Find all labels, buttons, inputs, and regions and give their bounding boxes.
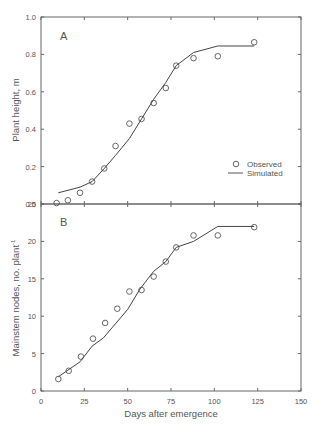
observed-point-b: [251, 224, 257, 230]
y-axis-label-a: Plant height, m: [10, 78, 21, 141]
legend: Observed Simulated: [228, 160, 283, 178]
x-tick-label: 50: [123, 397, 131, 406]
observed-point-a: [113, 143, 119, 149]
observed-point-b: [102, 320, 108, 326]
legend-observed-label: Observed: [247, 160, 282, 169]
x-axis-label: Days after emergence: [124, 408, 217, 419]
observed-point-a: [251, 39, 257, 45]
y-tick-label-b: 20: [28, 237, 36, 246]
legend-observed-marker: [233, 161, 239, 167]
chart: 0.20.40.60.81.00510152025025507510012515…: [0, 0, 318, 431]
x-tick-label: 125: [251, 397, 264, 406]
observed-point-a: [215, 53, 221, 59]
observed-point-a: [54, 200, 60, 206]
axes-group: 0.20.40.60.81.00510152025025507510012515…: [26, 13, 308, 406]
panel-b-label: B: [60, 216, 67, 228]
observed-point-b: [191, 233, 197, 239]
panel-a-label: A: [60, 30, 68, 42]
y-tick-label-b: 5: [32, 350, 36, 359]
y-tick-label-b: 0: [32, 387, 36, 396]
plot-group: [54, 39, 257, 381]
legend-simulated-label: Simulated: [247, 169, 283, 178]
x-tick-label: 75: [167, 397, 175, 406]
observed-point-b: [215, 233, 221, 239]
observed-point-b: [114, 306, 120, 312]
observed-point-b: [90, 336, 96, 342]
observed-point-b: [56, 376, 62, 382]
x-tick-label: 0: [39, 397, 43, 406]
y-tick-label-a: 0.4: [26, 125, 36, 134]
x-tick-label: 100: [208, 397, 221, 406]
y-axis-label-b: Mainstem nodes, no. plant-1: [10, 239, 21, 356]
simulated-line-b: [58, 226, 254, 376]
observed-point-a: [163, 85, 169, 91]
observed-point-a: [65, 197, 71, 203]
observed-point-a: [77, 190, 83, 196]
y-tick-label-a: 0.8: [26, 50, 36, 59]
y-tick-label-b: 15: [28, 275, 36, 284]
y-tick-label-a: 1.0: [26, 13, 36, 22]
observed-point-b: [127, 289, 133, 295]
observed-point-a: [127, 121, 133, 127]
simulated-line-a: [58, 46, 254, 193]
y-axis-label-b-sup: -1: [10, 239, 16, 245]
y-tick-label-a: 0.6: [26, 88, 36, 97]
plot-frame-b: [41, 204, 301, 391]
y-tick-label-boundary: 0.0: [26, 200, 36, 209]
y-tick-label-b: 10: [28, 312, 36, 321]
x-tick-label: 25: [80, 397, 88, 406]
y-axis-label-b-text: Mainstem nodes, no. plant: [10, 245, 21, 357]
x-tick-label: 150: [295, 397, 308, 406]
observed-point-a: [191, 55, 197, 61]
y-tick-label-a: 0.2: [26, 163, 36, 172]
